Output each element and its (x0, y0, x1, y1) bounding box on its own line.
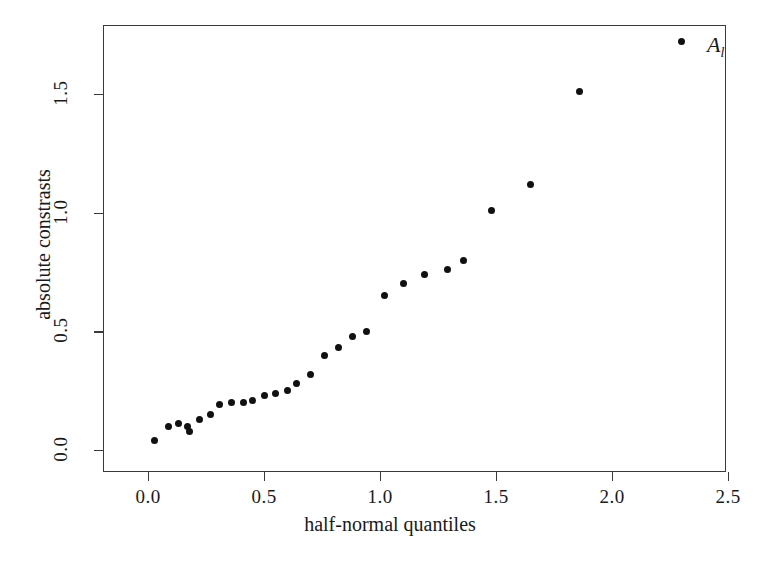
y-axis-tick (94, 213, 103, 214)
plot-frame (103, 25, 726, 472)
x-axis-tick-label: 2.0 (577, 486, 647, 508)
x-axis-label: half-normal quantiles (0, 513, 780, 536)
x-axis-tick-label: 2.5 (693, 486, 763, 508)
x-axis-tick (148, 472, 149, 481)
y-axis-tick (94, 331, 103, 332)
x-axis-tick-label: 1.5 (461, 486, 531, 508)
x-axis-tick (728, 472, 729, 481)
x-axis-tick (496, 472, 497, 481)
x-axis-tick-label: 0.0 (113, 486, 183, 508)
annotation-subscript: l (721, 46, 725, 61)
y-axis-label: absolute constrasts (32, 95, 55, 395)
half-normal-plot-figure: 0.00.51.01.52.02.50.00.51.01.5 half-norm… (0, 0, 780, 563)
y-axis-tick-label: 0.0 (50, 414, 72, 484)
y-axis-tick (94, 450, 103, 451)
x-axis-tick (264, 472, 265, 481)
x-axis-tick-label: 0.5 (229, 486, 299, 508)
annotation-label-A1: Al (707, 32, 724, 61)
y-axis-tick (94, 94, 103, 95)
x-axis-tick-label: 1.0 (345, 486, 415, 508)
x-axis-tick (612, 472, 613, 481)
x-axis-tick (380, 472, 381, 481)
annotation-base: A (707, 32, 720, 57)
